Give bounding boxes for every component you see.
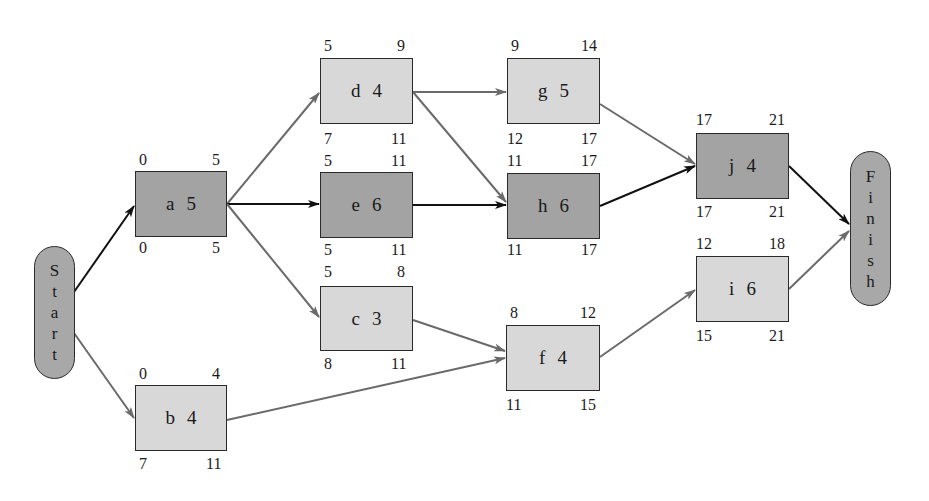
es-j: 17	[696, 112, 712, 128]
ef-h: 17	[581, 153, 597, 169]
start-node: S t a r t	[34, 246, 75, 379]
es-i: 12	[696, 236, 712, 252]
lf-i: 21	[769, 328, 785, 344]
duration-c: 3	[372, 308, 382, 329]
box-j: j4	[696, 133, 789, 199]
lf-c: 11	[391, 356, 406, 372]
lf-d: 11	[391, 131, 406, 147]
box-i: i6	[696, 256, 789, 322]
finish-node: F i n i s h	[850, 151, 891, 306]
activity-i: i	[729, 278, 734, 300]
finish-letter: i	[868, 187, 873, 208]
start-letter: a	[51, 302, 59, 323]
edge-d-h	[413, 92, 506, 202]
es-c: 5	[324, 264, 332, 280]
ef-e: 11	[391, 153, 406, 169]
duration-d: 4	[373, 80, 383, 101]
ef-a: 5	[212, 152, 220, 168]
ls-g: 12	[507, 131, 523, 147]
box-e: e6	[320, 172, 413, 238]
es-f: 8	[510, 305, 518, 321]
start-letter: S	[50, 260, 59, 281]
ef-c: 8	[397, 264, 405, 280]
ef-g: 14	[581, 38, 597, 54]
activity-g: g	[538, 80, 548, 102]
duration-e: 6	[372, 194, 382, 215]
ls-b: 7	[139, 456, 147, 472]
edge-b-f	[227, 358, 505, 420]
activity-b: b	[166, 407, 176, 429]
finish-letter: h	[866, 271, 875, 292]
ls-a: 0	[139, 240, 147, 256]
ef-j: 21	[769, 112, 785, 128]
edge-h-j	[600, 166, 695, 206]
es-e: 5	[324, 153, 332, 169]
lf-f: 15	[580, 397, 596, 413]
box-h: h6	[507, 173, 600, 239]
activity-h: h	[538, 195, 548, 217]
finish-letter: s	[867, 250, 874, 271]
edge-start-b	[74, 333, 134, 418]
ef-f: 12	[580, 305, 596, 321]
duration-b: 4	[187, 407, 197, 428]
edge-c-f	[413, 320, 505, 351]
lf-e: 11	[391, 242, 406, 258]
duration-a: 5	[186, 193, 196, 214]
es-b: 0	[139, 366, 147, 382]
duration-g: 5	[560, 80, 570, 101]
network-diagram: S t a r t F i n i s h 0 5 a5 0 5 0 4 b4 …	[0, 0, 929, 501]
duration-h: 6	[560, 195, 570, 216]
ls-f: 11	[506, 397, 521, 413]
box-g: g5	[507, 58, 600, 124]
activity-j: j	[729, 155, 734, 177]
ls-i: 15	[696, 328, 712, 344]
lf-b: 11	[206, 456, 221, 472]
box-b: b4	[135, 385, 227, 451]
lf-a: 5	[212, 240, 220, 256]
lf-j: 21	[769, 204, 785, 220]
ls-e: 5	[324, 242, 332, 258]
activity-c: c	[352, 308, 360, 330]
activity-a: a	[166, 193, 174, 215]
edge-a-c	[227, 204, 319, 317]
box-d: d4	[320, 58, 413, 124]
finish-letter: n	[866, 208, 875, 229]
duration-i: 6	[746, 278, 756, 299]
lf-h: 17	[581, 242, 597, 258]
box-a: a5	[135, 171, 227, 237]
finish-letter: F	[866, 166, 875, 187]
activity-d: d	[351, 80, 361, 102]
duration-f: 4	[557, 347, 567, 368]
edge-j-finish	[789, 166, 849, 224]
ls-j: 17	[696, 204, 712, 220]
edge-start-a	[74, 206, 134, 292]
ef-i: 18	[769, 236, 785, 252]
start-letter: t	[52, 281, 57, 302]
duration-j: 4	[746, 155, 756, 176]
ls-h: 11	[507, 242, 522, 258]
ls-d: 7	[324, 131, 332, 147]
es-h: 11	[507, 153, 522, 169]
edge-i-finish	[789, 231, 849, 289]
box-c: c3	[320, 286, 413, 351]
es-d: 5	[324, 38, 332, 54]
finish-letter: i	[868, 229, 873, 250]
lf-g: 17	[581, 131, 597, 147]
es-g: 9	[511, 38, 519, 54]
start-letter: t	[52, 344, 57, 365]
edge-f-i	[600, 290, 695, 357]
ef-b: 4	[212, 366, 220, 382]
edge-a-d	[227, 93, 319, 204]
edge-g-j	[600, 104, 695, 164]
ls-c: 8	[324, 356, 332, 372]
activity-f: f	[539, 347, 545, 369]
activity-e: e	[352, 194, 360, 216]
ef-d: 9	[397, 38, 405, 54]
box-f: f4	[506, 325, 600, 391]
es-a: 0	[139, 152, 147, 168]
start-letter: r	[52, 323, 58, 344]
